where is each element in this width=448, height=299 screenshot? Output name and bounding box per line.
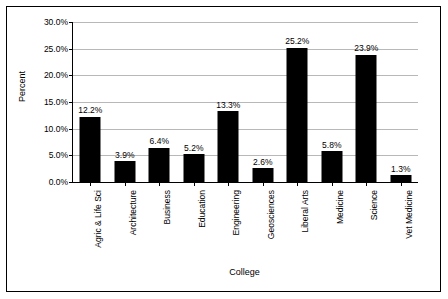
bar[interactable]	[80, 117, 101, 182]
bar-value-label: 3.9%	[115, 151, 134, 160]
bar-slot: 5.2%Education	[177, 22, 212, 182]
x-category-label: Vet Medicine	[405, 190, 414, 239]
bar-slot: 23.9%Science	[349, 22, 384, 182]
bar-value-label: 5.8%	[322, 141, 341, 150]
y-tick-label: 25.0%	[44, 44, 68, 53]
x-category-label: Architecture	[129, 190, 138, 235]
x-category-label: Agric & Life Sci	[94, 190, 103, 248]
x-tick-mark	[366, 182, 367, 186]
bar-slot: 5.8%Medicine	[315, 22, 350, 182]
bar-value-label: 13.3%	[216, 101, 240, 110]
bar-value-label: 2.6%	[253, 158, 272, 167]
x-category-label: Medicine	[336, 190, 345, 224]
bar[interactable]	[390, 175, 411, 182]
bar-value-label: 25.2%	[285, 37, 309, 46]
x-category-label: Liberal Arts	[301, 190, 310, 233]
bar[interactable]	[321, 151, 342, 182]
bar-slot: 1.3%Vet Medicine	[384, 22, 419, 182]
x-category-label: Science	[370, 190, 379, 220]
x-category-label: Business	[163, 190, 172, 225]
bar-slot: 13.3%Engineering	[211, 22, 246, 182]
bar-chart: Percent 0.0%5.0%10.0%15.0%20.0%25.0%30.0…	[0, 0, 448, 299]
x-tick-mark	[90, 182, 91, 186]
bar-value-label: 1.3%	[391, 165, 410, 174]
x-tick-mark	[263, 182, 264, 186]
x-axis-title: College	[72, 268, 417, 277]
bar[interactable]	[252, 168, 273, 182]
bar[interactable]	[218, 111, 239, 182]
y-tick-label: 30.0%	[44, 18, 68, 27]
bar[interactable]	[114, 161, 135, 182]
bar-series: 12.2%Agric & Life Sci3.9%Architecture6.4…	[73, 22, 418, 182]
bar-slot: 25.2%Liberal Arts	[280, 22, 315, 182]
bar[interactable]	[287, 48, 308, 182]
x-tick-mark	[194, 182, 195, 186]
y-tick-mark	[69, 182, 73, 183]
x-tick-mark	[125, 182, 126, 186]
bar[interactable]	[183, 154, 204, 182]
x-tick-mark	[401, 182, 402, 186]
bar[interactable]	[356, 55, 377, 182]
x-tick-mark	[159, 182, 160, 186]
bar-slot: 12.2%Agric & Life Sci	[73, 22, 108, 182]
x-category-label: Engineering	[232, 190, 241, 235]
y-tick-label: 5.0%	[49, 151, 68, 160]
bar-value-label: 5.2%	[184, 144, 203, 153]
x-tick-mark	[332, 182, 333, 186]
y-tick-label: 20.0%	[44, 71, 68, 80]
bar-slot: 2.6%Geosciences	[246, 22, 281, 182]
bar-value-label: 6.4%	[150, 137, 169, 146]
x-category-label: Geosciences	[267, 190, 276, 239]
y-tick-label: 15.0%	[44, 98, 68, 107]
bar-slot: 3.9%Architecture	[108, 22, 143, 182]
bar-value-label: 23.9%	[354, 44, 378, 53]
x-category-label: Education	[198, 190, 207, 228]
bar-value-label: 12.2%	[78, 106, 102, 115]
y-tick-label: 10.0%	[44, 124, 68, 133]
y-tick-label: 0.0%	[49, 178, 68, 187]
bar[interactable]	[149, 148, 170, 182]
plot-area: 0.0%5.0%10.0%15.0%20.0%25.0%30.0% 12.2%A…	[72, 22, 418, 183]
x-tick-mark	[228, 182, 229, 186]
bar-slot: 6.4%Business	[142, 22, 177, 182]
x-tick-mark	[297, 182, 298, 186]
y-axis-title: Percent	[18, 71, 27, 102]
